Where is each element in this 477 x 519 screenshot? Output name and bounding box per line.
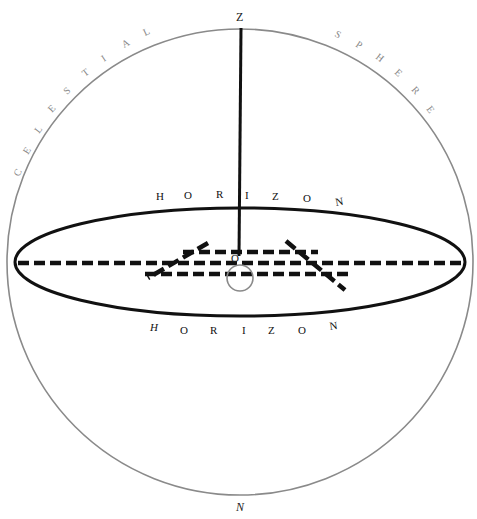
arc-letter: E [45, 102, 57, 114]
nadir-label: N [235, 500, 245, 514]
arc-letter: T [80, 66, 91, 78]
horizon-letter: N [329, 319, 339, 332]
arc-letter: S [61, 85, 72, 97]
horizon-letter: I [242, 324, 246, 336]
arc-letter: E [393, 66, 405, 78]
observer-circle [227, 265, 253, 291]
arc-letter: S [333, 28, 343, 40]
horizon-label-upper: H O R I Z O N [156, 188, 344, 208]
horizon-letter: O [303, 192, 311, 204]
observer-label: O [231, 252, 239, 264]
arc-letter: E [20, 145, 33, 156]
arc-letter: H [374, 51, 386, 64]
arc-letter: P [354, 38, 365, 50]
horizon-letter: R [216, 188, 224, 200]
arc-letter: C [11, 167, 24, 178]
arc-letter: R [410, 84, 423, 97]
horizon-letter: O [180, 324, 188, 336]
horizon-letter: Z [268, 324, 275, 336]
arc-letter: E [424, 104, 436, 115]
horizon-letter: Z [272, 190, 279, 202]
arc-letter: A [120, 36, 132, 49]
arc-letter: L [32, 124, 44, 136]
horizon-letter: H [149, 321, 159, 333]
celestial-sphere-diagram: O Z N C E L E S T I A L S P H E R E H O … [0, 0, 477, 519]
arc-letter: L [141, 25, 151, 38]
horizon-letter: H [156, 190, 164, 202]
horizon-letter: N [334, 195, 344, 208]
zenith-label: Z [236, 10, 243, 24]
horizon-label-lower: H O R I Z O N [149, 319, 338, 336]
horizon-letter: O [184, 189, 192, 201]
horizon-letter: R [210, 324, 218, 336]
zenith-axis-line [239, 28, 241, 256]
horizon-letter: O [298, 324, 306, 336]
sphere-arc-label: S P H E R E [333, 28, 437, 115]
horizon-letter: I [245, 189, 249, 201]
dashed-line-right-diagonal [286, 241, 345, 290]
arc-letter: I [99, 53, 108, 64]
